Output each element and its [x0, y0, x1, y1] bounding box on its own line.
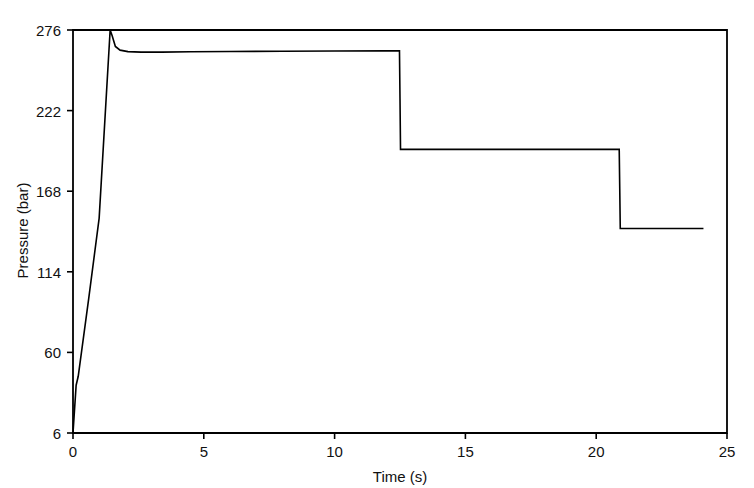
data-series-group	[73, 30, 703, 433]
x-tick-label: 5	[200, 443, 208, 460]
pressure-time-chart: 660114168222276 0510152025 Pressure (bar…	[0, 0, 754, 488]
x-tick-label: 15	[457, 443, 474, 460]
pressure-series-line	[73, 30, 703, 433]
x-tick-label: 10	[326, 443, 343, 460]
x-axis-title: Time (s)	[373, 468, 427, 485]
x-tick-label: 25	[719, 443, 736, 460]
x-tick-label: 0	[69, 443, 77, 460]
x-tick-label: 20	[588, 443, 605, 460]
chart-plot-area	[0, 0, 754, 488]
y-axis-title: Pressure (bar)	[14, 29, 31, 432]
